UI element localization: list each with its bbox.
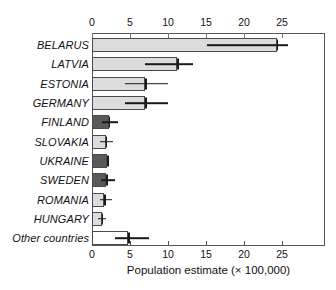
- bar: [92, 154, 107, 168]
- bottom-tick-label-15: 15: [200, 248, 212, 260]
- error-bar-cap: [145, 78, 147, 89]
- bottom-tick-label-0: 0: [89, 248, 95, 260]
- error-bar-cap: [106, 175, 108, 186]
- bar-row: BELARUS: [0, 36, 336, 55]
- top-tick-label-20: 20: [238, 16, 250, 28]
- bottom-tick-label-10: 10: [162, 248, 174, 260]
- bar-row: ESTONIA: [0, 74, 336, 93]
- error-bar-line: [115, 237, 149, 239]
- category-label: ROMANIA: [37, 194, 89, 206]
- error-bar-cap: [177, 59, 179, 70]
- bar-row: GERMANY: [0, 93, 336, 112]
- category-label: HUNGARY: [34, 213, 89, 225]
- bottom-tick-label-5: 5: [127, 248, 133, 260]
- error-bar-cap: [145, 98, 147, 109]
- top-tick-label-15: 15: [200, 16, 212, 28]
- error-bar-cap: [107, 155, 109, 166]
- x-axis-title: Population estimate (× 100,000): [92, 264, 325, 276]
- error-bar-cap: [104, 194, 106, 205]
- bar-row: FINLAND: [0, 113, 336, 132]
- bar-row: UKRAINE: [0, 151, 336, 170]
- top-tick-label-25: 25: [276, 16, 288, 28]
- error-bar-cap: [277, 40, 279, 51]
- top-tick-label-5: 5: [127, 16, 133, 28]
- error-bar-cap: [128, 233, 130, 244]
- category-label: BELARUS: [37, 39, 89, 51]
- category-label: SWEDEN: [40, 174, 89, 186]
- category-label: FINLAND: [41, 116, 89, 128]
- bar-row: Other countries: [0, 229, 336, 248]
- category-label: SLOVAKIA: [34, 136, 89, 148]
- top-tick-label-0: 0: [89, 16, 95, 28]
- error-bar-cap: [102, 213, 104, 224]
- population-bar-chart: 0510152025 0510152025 BELARUSLATVIAESTON…: [0, 0, 336, 290]
- bar-row: ROMANIA: [0, 190, 336, 209]
- category-label: Other countries: [12, 232, 89, 244]
- bar-row: SWEDEN: [0, 171, 336, 190]
- bar-row: LATVIA: [0, 55, 336, 74]
- top-tick-label-10: 10: [162, 16, 174, 28]
- category-label: LATVIA: [51, 58, 89, 70]
- category-label: ESTONIA: [40, 78, 89, 90]
- category-label: GERMANY: [33, 97, 89, 109]
- error-bar-cap: [106, 136, 108, 147]
- error-bar-cap: [109, 117, 111, 128]
- bottom-tick-label-20: 20: [238, 248, 250, 260]
- bar-row: SLOVAKIA: [0, 132, 336, 151]
- error-bar-line: [145, 64, 193, 66]
- bottom-tick-label-25: 25: [276, 248, 288, 260]
- category-label: UKRAINE: [39, 155, 89, 167]
- bar-row: HUNGARY: [0, 209, 336, 228]
